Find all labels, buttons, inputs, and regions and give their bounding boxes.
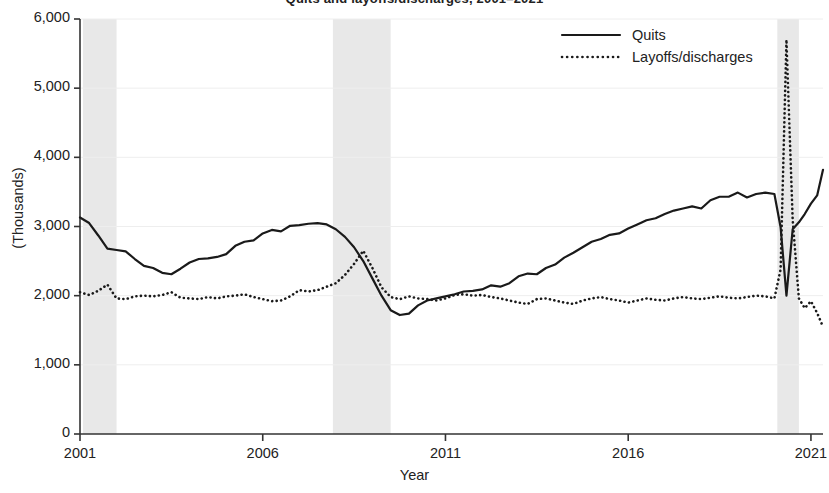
chart-legend: QuitsLayoffs/discharges (560, 24, 753, 68)
legend-key-dotted (560, 50, 622, 64)
x-tick-label: 2016 (588, 445, 668, 461)
series-line-layoffs-discharges (80, 40, 823, 327)
y-tick-label: 0 (6, 424, 70, 440)
legend-label: Layoffs/discharges (632, 49, 753, 65)
y-tick-label: 3,000 (6, 217, 70, 233)
series-line-quits (80, 170, 823, 315)
y-tick-label: 4,000 (6, 147, 70, 163)
plot-area (0, 0, 829, 493)
legend-label: Quits (632, 27, 666, 43)
x-axis-title: Year (0, 467, 829, 483)
chart-container: Quits and layoffs/discharges, 2001–2021 … (0, 0, 829, 493)
x-tick-label: 2006 (223, 445, 303, 461)
y-tick-label: 5,000 (6, 78, 70, 94)
legend-key-solid (560, 28, 622, 42)
legend-item: Layoffs/discharges (560, 46, 753, 68)
y-tick-label: 1,000 (6, 355, 70, 371)
x-tick-label: 2021 (771, 445, 829, 461)
y-tick-label: 6,000 (6, 9, 70, 25)
legend-item: Quits (560, 24, 753, 46)
x-tick-label: 2001 (40, 445, 120, 461)
y-tick-label: 2,000 (6, 286, 70, 302)
x-tick-label: 2011 (405, 445, 485, 461)
